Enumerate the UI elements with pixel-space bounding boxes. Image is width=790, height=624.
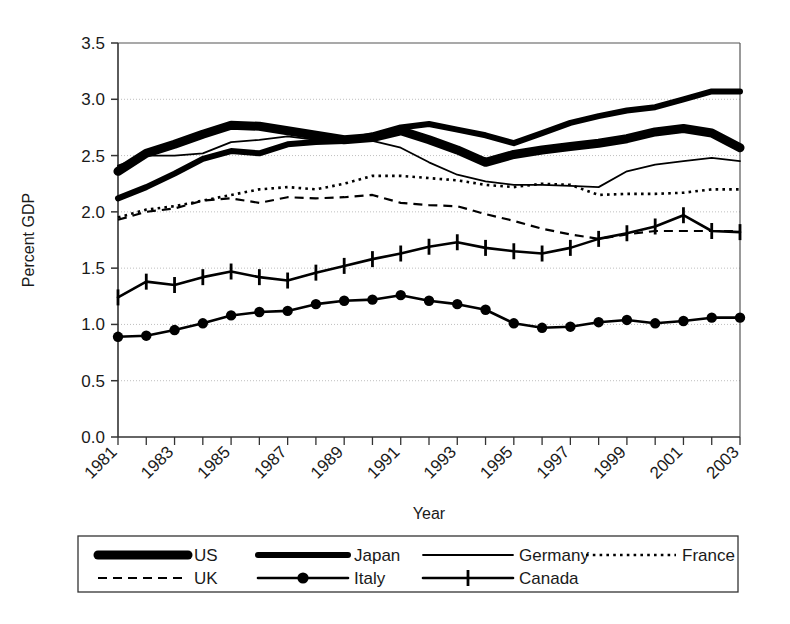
data-point (311, 299, 321, 309)
data-point (141, 330, 151, 340)
data-point (509, 318, 519, 328)
x-axis-title-text: Year (413, 505, 446, 522)
data-point (593, 317, 603, 327)
legend-label: UK (194, 569, 218, 588)
y-tick-label: 0.5 (81, 372, 105, 391)
x-axis-title: Year (413, 505, 446, 522)
data-point (282, 306, 292, 316)
chart-figure: 0.00.51.01.52.02.53.03.5 198119831985198… (0, 0, 790, 624)
data-point (169, 325, 179, 335)
data-point (198, 318, 208, 328)
legend-label: Germany (519, 546, 589, 565)
y-tick-label: 1.0 (81, 315, 105, 334)
data-point (226, 310, 236, 320)
y-tick-label: 1.5 (81, 259, 105, 278)
data-point (396, 290, 406, 300)
legend-label: Canada (519, 569, 579, 588)
y-tick-label: 2.5 (81, 147, 105, 166)
data-point (650, 318, 660, 328)
y-axis-title-text: Percent GDP (20, 193, 37, 287)
legend-label: Japan (354, 546, 400, 565)
data-point (339, 296, 349, 306)
data-point (367, 294, 377, 304)
data-point (537, 323, 547, 333)
y-tick-label: 3.0 (81, 90, 105, 109)
legend-border (78, 536, 738, 592)
data-point (480, 305, 490, 315)
data-point (254, 307, 264, 317)
data-point (622, 315, 632, 325)
y-tick-label: 2.0 (81, 203, 105, 222)
y-tick-label: 0.0 (81, 428, 105, 447)
legend-label: Italy (354, 569, 386, 588)
y-axis-title: Percent GDP (20, 193, 37, 287)
data-point (113, 332, 123, 342)
legend-label: US (194, 546, 218, 565)
data-point (424, 296, 434, 306)
data-point (678, 316, 688, 326)
data-point (735, 312, 745, 322)
line-chart: 0.00.51.01.52.02.53.03.5 198119831985198… (0, 0, 790, 624)
chart-legend: USJapanGermanyFranceUKItalyCanada (78, 536, 738, 592)
data-point (707, 312, 717, 322)
data-point (565, 321, 575, 331)
data-point (452, 299, 462, 309)
legend-label: France (682, 546, 735, 565)
y-tick-label: 3.5 (81, 34, 105, 53)
legend-marker (297, 572, 308, 583)
